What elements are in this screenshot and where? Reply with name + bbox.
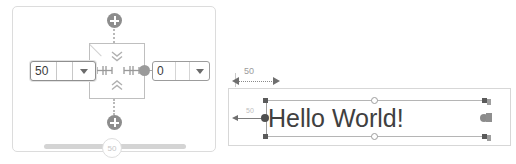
add-below-button[interactable]	[107, 115, 122, 130]
left-value-field[interactable]: 50	[30, 61, 96, 81]
panel-handle-top-right[interactable]	[487, 99, 491, 105]
left-field-spacer	[57, 62, 73, 80]
right-value-text[interactable]: 0	[153, 62, 176, 80]
right-field-spacer	[176, 62, 190, 80]
left-field-dropdown-button[interactable]	[73, 62, 95, 80]
add-above-button[interactable]	[107, 13, 122, 28]
dimension-line	[236, 81, 276, 82]
chevron-down-icon	[80, 69, 88, 74]
anchor-point-right[interactable]	[139, 65, 150, 76]
slider-thumb[interactable]: 50	[102, 138, 122, 158]
left-dimension-label: 50	[246, 107, 254, 114]
top-dimension-indicator: 50	[232, 66, 288, 88]
chevron-down-icon	[196, 69, 204, 74]
chevron-double-up-icon[interactable]	[110, 80, 124, 91]
connector-dotted-bottom	[113, 99, 117, 115]
arrow-left-icon	[232, 77, 239, 85]
arrow-left-icon	[232, 115, 238, 121]
right-field-dropdown-button[interactable]	[190, 62, 209, 80]
diagonal-corner-mark-icon	[90, 44, 103, 57]
text-object-content[interactable]: Hello World!	[268, 100, 483, 137]
arrow-right-icon	[273, 77, 280, 85]
component-editor-panel: 50 0 50	[12, 6, 216, 152]
measure-handle-icon-right	[123, 65, 140, 76]
panel-handle-middle-right[interactable]	[486, 113, 492, 122]
chevron-double-down-icon[interactable]	[110, 51, 124, 62]
top-dimension-label: 50	[244, 66, 254, 76]
left-value-text[interactable]: 50	[31, 62, 57, 80]
connector-dotted-top	[113, 29, 117, 43]
right-value-field[interactable]: 0	[152, 61, 210, 81]
value-slider[interactable]: 50	[44, 138, 186, 156]
measure-handle-icon-left	[96, 65, 113, 76]
panel-handle-bottom-right[interactable]	[487, 135, 491, 141]
